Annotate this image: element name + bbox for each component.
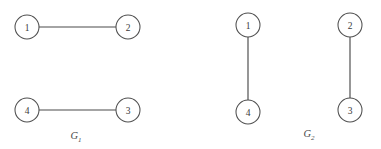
node-label-g1-n3: 3	[126, 106, 131, 116]
node-label-g1-n1: 1	[25, 23, 30, 33]
node-g2-n3[interactable]: 3	[338, 98, 362, 122]
node-g1-n1[interactable]: 1	[15, 15, 39, 39]
node-g1-n3[interactable]: 3	[116, 98, 140, 122]
graph-caption-subscript: 1	[78, 136, 82, 144]
node-label-g1-n4: 4	[25, 106, 30, 116]
graph-figure-canvas: 1243G11423G2	[0, 0, 381, 149]
node-g1-n4[interactable]: 4	[15, 98, 39, 122]
node-g2-n2[interactable]: 2	[338, 13, 362, 37]
node-label-g2-n3: 3	[348, 106, 353, 116]
node-label-g2-n2: 2	[348, 21, 353, 31]
graph-caption-subscript: 2	[311, 134, 315, 142]
graph-g1: 1243G1	[15, 15, 140, 144]
graph-figure: 1243G11423G2	[0, 0, 381, 149]
node-g2-n1[interactable]: 1	[236, 13, 260, 37]
graph-g2: 1423G2	[236, 13, 362, 142]
node-g1-n2[interactable]: 2	[116, 15, 140, 39]
graph-caption-g2: G2	[303, 128, 315, 142]
node-label-g1-n2: 2	[126, 23, 131, 33]
node-label-g2-n4: 4	[246, 108, 251, 118]
node-g2-n4[interactable]: 4	[236, 100, 260, 124]
node-label-g2-n1: 1	[246, 21, 251, 31]
graph-caption-g1: G1	[70, 130, 81, 144]
